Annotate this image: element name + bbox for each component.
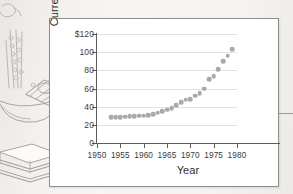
x-tick-mark xyxy=(167,144,168,148)
x-tick-label: 1970 xyxy=(181,150,200,160)
x-tick-label: 1965 xyxy=(158,150,177,160)
y-tick-label: 60 xyxy=(50,84,94,94)
data-point xyxy=(216,67,221,72)
x-tick-label: 1975 xyxy=(204,150,223,160)
y-tick-label: 0 xyxy=(50,138,94,148)
scatter-plot-area xyxy=(97,34,237,143)
chart-figure-panel: Currency (billions) 020406080100$120 195… xyxy=(49,18,279,187)
y-tick-label: 40 xyxy=(50,102,94,112)
y-tick-label: 100 xyxy=(50,47,94,57)
data-point xyxy=(211,74,216,79)
x-tick-mark xyxy=(144,144,145,148)
page-rule-line xyxy=(277,113,293,114)
data-point xyxy=(230,47,235,52)
data-point xyxy=(188,97,193,102)
data-point xyxy=(221,59,226,64)
data-point xyxy=(197,91,202,96)
y-tick-label: 20 xyxy=(50,120,94,130)
x-tick-mark xyxy=(97,144,98,148)
y-tick-label: 80 xyxy=(50,65,94,75)
x-tick-label: 1955 xyxy=(111,150,130,160)
x-axis-line xyxy=(96,143,280,144)
data-point xyxy=(225,54,230,59)
x-tick-label: 1980 xyxy=(228,150,247,160)
x-tick-mark xyxy=(190,144,191,148)
x-tick-label: 1950 xyxy=(88,150,107,160)
y-tick-label: $120 xyxy=(50,29,94,39)
data-point xyxy=(174,103,179,108)
x-tick-mark xyxy=(120,144,121,148)
x-axis-title: Year xyxy=(96,164,280,176)
x-tick-mark xyxy=(214,144,215,148)
data-point xyxy=(207,77,212,82)
data-point xyxy=(202,86,207,91)
x-tick-mark xyxy=(237,144,238,148)
x-tick-label: 1960 xyxy=(134,150,153,160)
